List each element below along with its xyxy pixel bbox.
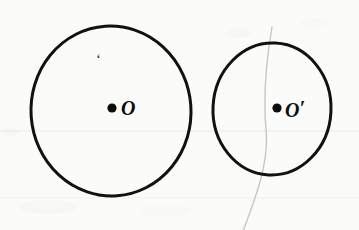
circle-O-prime-outline (210, 40, 335, 178)
geometry-diagram (0, 0, 359, 230)
figure-canvas: O O′ ‘ (0, 0, 359, 230)
smudge (140, 205, 190, 217)
center-dot-O (107, 103, 116, 112)
faint-pencil-arc-icon (243, 27, 272, 230)
smudge (18, 200, 78, 214)
smudge (300, 18, 330, 28)
smudge (225, 28, 251, 38)
smudge (0, 128, 20, 136)
center-dot-O-prime (272, 103, 281, 112)
